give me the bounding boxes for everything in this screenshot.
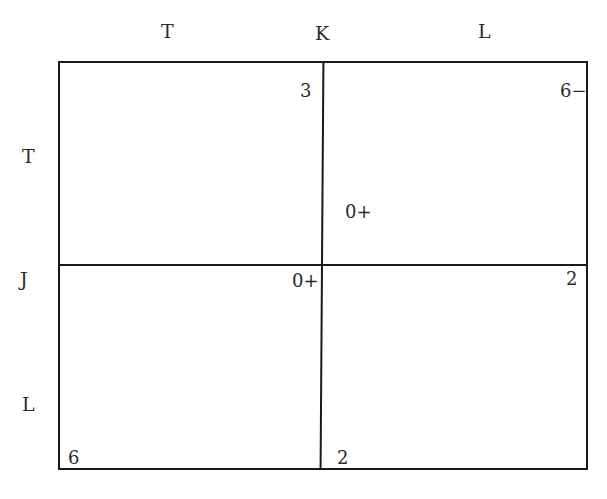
row-label-t: T	[22, 147, 35, 166]
horizontal-divider	[58, 264, 588, 266]
value-top-left: 3	[300, 82, 311, 100]
row-label-l: L	[22, 395, 35, 414]
value-bottom-right-bottom: 2	[337, 449, 348, 467]
value-top-right-corner: 6−	[560, 82, 587, 100]
column-label-t: T	[161, 22, 174, 41]
value-bottom-left-top: 0+	[292, 272, 319, 290]
value-bottom-left-bottom: 6	[68, 449, 79, 467]
value-top-right-inner: 0+	[345, 203, 372, 221]
row-label-j: J	[20, 270, 28, 289]
column-label-k: K	[315, 24, 329, 43]
value-bottom-right-top: 2	[566, 270, 577, 288]
column-label-l: L	[478, 22, 491, 41]
